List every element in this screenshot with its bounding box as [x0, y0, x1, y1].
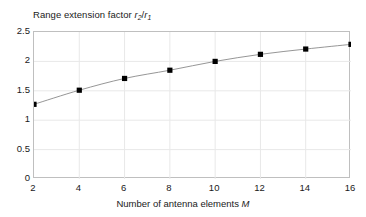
- data-point-marker: [303, 46, 308, 51]
- x-axis-tick-label: 2: [21, 182, 45, 193]
- x-axis-tick-label: 14: [293, 182, 317, 193]
- data-point-marker: [348, 42, 351, 47]
- data-point-marker: [122, 76, 127, 81]
- chart-figure: Range extension factor r2/r1 00.511.522.…: [0, 0, 366, 217]
- chart-title-prefix: Range extension factor: [33, 9, 135, 20]
- x-axis-tick-label: 6: [112, 182, 136, 193]
- x-axis-tick-label: 16: [338, 182, 362, 193]
- chart-title-r1-subscript: 1: [147, 14, 151, 21]
- x-axis-tick-labels: 246810121416: [33, 182, 350, 196]
- y-axis-tick-label: 2.5: [4, 26, 30, 36]
- x-axis-label: Number of antenna elements M: [0, 198, 366, 209]
- x-axis-label-symbol: M: [242, 198, 250, 209]
- data-point-marker: [213, 59, 218, 64]
- chart-title-r2-subscript: 2: [138, 14, 142, 21]
- y-axis-tick-label: 1.5: [4, 85, 30, 95]
- gridlines: [34, 32, 351, 179]
- x-axis-tick-label: 8: [157, 182, 181, 193]
- data-line: [34, 44, 351, 104]
- plot-area: [33, 31, 350, 178]
- data-point-marker: [77, 88, 82, 93]
- plot-svg: [34, 32, 351, 179]
- series-path: [34, 44, 351, 104]
- data-point-marker: [34, 102, 37, 107]
- y-axis-tick-label: 0.5: [4, 144, 30, 154]
- chart-title: Range extension factor r2/r1: [33, 9, 151, 20]
- x-axis-tick-label: 12: [247, 182, 271, 193]
- x-axis-tick-label: 4: [66, 182, 90, 193]
- x-axis-tick-label: 10: [202, 182, 226, 193]
- data-point-marker: [258, 52, 263, 57]
- data-markers: [34, 42, 351, 107]
- y-axis-tick-label: 1: [4, 114, 30, 124]
- x-axis-label-text: Number of antenna elements: [116, 198, 241, 209]
- y-axis-tick-label: 2: [4, 55, 30, 65]
- data-point-marker: [167, 68, 172, 73]
